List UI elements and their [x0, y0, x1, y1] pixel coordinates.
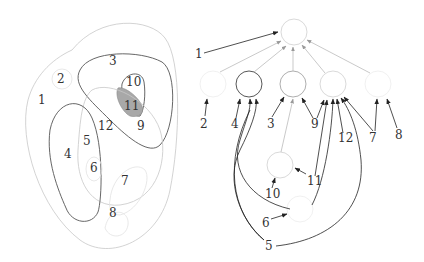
node-2 [200, 71, 226, 97]
node-9-12 [320, 71, 346, 97]
right-label-4: 4 [231, 117, 239, 131]
right-label-6: 6 [262, 216, 270, 230]
left-label-5: 5 [83, 134, 91, 148]
edge-12 [337, 99, 343, 133]
right-label-11: 11 [307, 174, 322, 188]
edge-10-to-3 [281, 99, 293, 152]
edge-9-to-9node [317, 100, 324, 118]
left-label-7: 7 [121, 174, 129, 188]
edge-7 [375, 99, 377, 131]
region-1-outline [26, 23, 178, 248]
region-tree-figure: 1 2 3 10 11 12 9 5 4 6 7 8 [0, 0, 424, 262]
right-label-8: 8 [395, 128, 403, 142]
edge-9-to-3 [302, 98, 313, 118]
right-label-5: 5 [265, 239, 273, 253]
right-label-1: 1 [195, 47, 203, 61]
edge-4 [236, 99, 240, 118]
node-4 [236, 71, 262, 97]
left-label-8: 8 [109, 206, 117, 220]
left-region-diagram: 1 2 3 10 11 12 9 5 4 6 7 8 [26, 23, 178, 248]
left-label-11: 11 [124, 99, 139, 113]
edge-node4-root [254, 46, 286, 72]
right-label-12: 12 [338, 131, 353, 145]
node-10-11 [267, 152, 293, 178]
edge-11 [295, 168, 306, 174]
edge-node7-root [307, 40, 370, 73]
edge-6 [271, 214, 287, 219]
edge-1-root [204, 32, 278, 53]
node-3 [280, 71, 306, 97]
node-root [281, 19, 307, 45]
edge-6-to-9node [312, 99, 333, 205]
left-label-4: 4 [64, 147, 72, 161]
edge-2 [205, 99, 207, 116]
edge-7-to-9node [344, 97, 373, 131]
right-tree-diagram: 1 2 4 3 9 12 7 8 11 10 6 5 [195, 19, 403, 253]
right-label-7: 7 [369, 131, 377, 145]
right-label-3: 3 [267, 117, 275, 131]
edge-3 [272, 97, 284, 117]
right-label-2: 2 [200, 117, 208, 131]
right-label-9: 9 [311, 117, 319, 131]
left-label-6: 6 [90, 161, 98, 175]
edge-8 [387, 99, 397, 128]
edge-node9-root [302, 45, 325, 73]
left-label-12: 12 [98, 119, 113, 133]
node-7-8 [365, 71, 391, 97]
left-label-10: 10 [126, 75, 141, 89]
left-label-3: 3 [109, 54, 117, 68]
left-label-1: 1 [38, 93, 46, 107]
left-label-2: 2 [57, 72, 65, 86]
left-label-9: 9 [137, 119, 145, 133]
node-5-6 [287, 196, 313, 222]
right-label-10: 10 [265, 187, 280, 201]
